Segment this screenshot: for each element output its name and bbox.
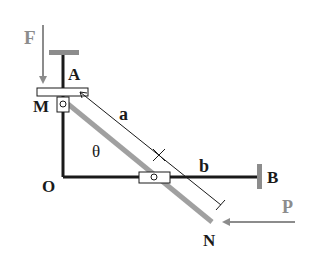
label-n: N [203, 231, 216, 250]
dimension-line [80, 92, 225, 210]
bar-mn [68, 104, 212, 222]
label-p: P [282, 197, 293, 217]
label-o: O [42, 177, 55, 196]
label-b-length: b [199, 156, 209, 176]
label-theta: θ [92, 142, 100, 161]
label-a-point: A [68, 65, 81, 84]
mechanism-diagram: F A M a θ O b B P N [0, 0, 313, 254]
diagram-svg: F A M a θ O b B P N [0, 0, 313, 254]
wall-b [257, 164, 262, 189]
label-b-point: B [267, 168, 278, 187]
label-m: M [33, 97, 49, 116]
slider-horizontal [139, 172, 170, 183]
slider-m [57, 97, 69, 112]
label-f: F [24, 27, 36, 48]
label-a-length: a [119, 104, 128, 124]
